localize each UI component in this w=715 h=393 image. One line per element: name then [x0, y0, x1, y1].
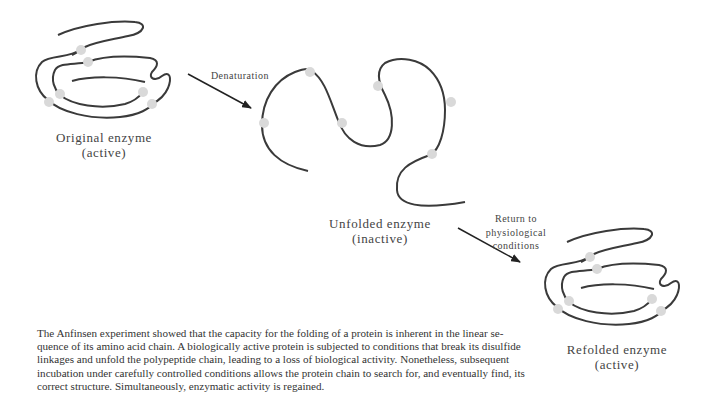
- unfolded-enzyme-state: (inactive): [290, 231, 470, 246]
- figure-caption: The Anfinsen experiment showed that the …: [37, 327, 517, 393]
- renaturation-label: Return to physiological conditions: [468, 212, 564, 253]
- original-enzyme-state: (active): [14, 145, 194, 160]
- denaturation-label: Denaturation: [200, 69, 280, 83]
- caption-line: The Anfinsen experiment showed that the …: [37, 327, 517, 340]
- original-enzyme-label: Original enzyme (active): [14, 130, 194, 160]
- caption-line: quence of its amino acid chain. A biolog…: [37, 340, 517, 353]
- renaturation-label-line1: Return to: [468, 212, 564, 226]
- renaturation-label-line3: conditions: [468, 239, 564, 253]
- refolded-enzyme-title: Refolded enzyme: [532, 342, 702, 357]
- original-enzyme-structure: [36, 22, 170, 118]
- unfolded-enzyme-title: Unfolded enzyme: [290, 216, 470, 231]
- original-enzyme-title: Original enzyme: [14, 130, 194, 145]
- renaturation-label-line2: physiological: [468, 226, 564, 240]
- caption-line: linkages and unfold the polypeptide chai…: [37, 353, 517, 366]
- refolded-enzyme-structure: [545, 229, 679, 325]
- caption-line: incubation under carefully controlled co…: [37, 367, 517, 380]
- refolded-enzyme-state: (active): [532, 357, 702, 372]
- refolded-enzyme-label: Refolded enzyme (active): [532, 342, 702, 372]
- unfolded-enzyme-structure: [259, 59, 465, 206]
- caption-line: correct structure. Simultaneously, enzym…: [37, 380, 517, 393]
- unfolded-enzyme-label: Unfolded enzyme (inactive): [290, 216, 470, 246]
